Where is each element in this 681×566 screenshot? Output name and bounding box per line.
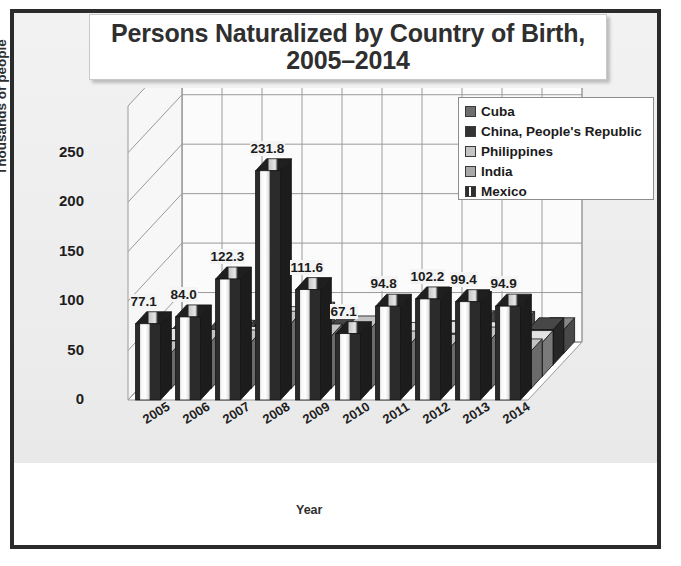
- legend-swatch-mexico: [465, 186, 476, 197]
- screenshot-root: Persons Naturalized by Country of Birth,…: [0, 0, 681, 566]
- data-label: 77.1: [130, 294, 158, 309]
- data-label: 84.0: [170, 287, 198, 302]
- y-tick-label: 50: [36, 341, 84, 358]
- legend-swatch-india: [465, 166, 476, 177]
- legend-swatch-cuba: [465, 106, 476, 117]
- legend-item[interactable]: Mexico: [465, 182, 648, 201]
- data-label: 99.4: [450, 272, 478, 287]
- legend-item[interactable]: Philippines: [465, 142, 648, 161]
- chart-title-line-1: Persons Naturalized by Country of Birth,: [111, 20, 585, 47]
- legend-swatch-china: [465, 126, 476, 137]
- data-label: 122.3: [210, 249, 246, 264]
- data-label: 231.8: [250, 141, 286, 156]
- data-label: 94.8: [370, 276, 398, 291]
- legend-label-india: India: [481, 164, 513, 179]
- legend-item[interactable]: Cuba: [465, 102, 648, 121]
- y-tick-label: 150: [36, 242, 84, 259]
- legend-label-china: China, People's Republic: [481, 124, 642, 139]
- chart-title-box: Persons Naturalized by Country of Birth,…: [89, 14, 607, 80]
- y-axis-tick-labels: 050100150200250: [36, 88, 84, 448]
- data-label: 102.2: [410, 269, 446, 284]
- legend-item[interactable]: China, People's Republic: [465, 122, 648, 141]
- y-axis-title: Thousands of people: [0, 39, 9, 175]
- legend-item[interactable]: India: [465, 162, 648, 181]
- legend-swatch-philippines: [465, 146, 476, 157]
- y-tick-label: 100: [36, 291, 84, 308]
- legend-label-mexico: Mexico: [481, 184, 527, 199]
- y-tick-label: 0: [36, 390, 84, 407]
- chart-legend: Cuba China, People's Republic Philippine…: [458, 97, 654, 200]
- legend-label-philippines: Philippines: [481, 144, 553, 159]
- data-label: 94.9: [490, 276, 518, 291]
- y-tick-label: 250: [36, 143, 84, 160]
- data-label: 111.6: [290, 260, 324, 275]
- legend-label-cuba: Cuba: [481, 104, 515, 119]
- x-axis-title: Year: [296, 503, 322, 517]
- y-tick-label: 200: [36, 192, 84, 209]
- chart-title-line-2: 2005–2014: [286, 47, 409, 74]
- data-label: 67.1: [330, 304, 358, 319]
